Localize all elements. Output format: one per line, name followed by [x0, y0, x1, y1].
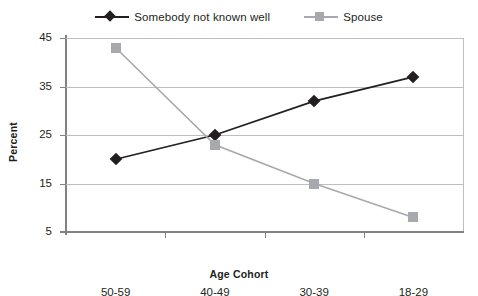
data-point-marker — [408, 212, 418, 222]
legend-label-0: Somebody not known well — [134, 11, 270, 23]
legend-key-square-icon — [304, 11, 338, 23]
y-tick-label: 15 — [4, 178, 52, 190]
data-point-marker — [309, 179, 319, 189]
x-tick-mark — [265, 232, 266, 238]
plot-area: 515253545 50-5940-4930-3918-29 — [66, 38, 463, 232]
series-lines — [66, 38, 463, 232]
y-tick-label: 45 — [4, 32, 52, 44]
x-tick-label: 50-59 — [101, 286, 130, 296]
legend-item-somebody-not-known-well: Somebody not known well — [95, 11, 270, 23]
x-tick-label: 18-29 — [399, 286, 428, 296]
data-point-marker — [111, 43, 121, 53]
x-tick-label: 30-39 — [299, 286, 328, 296]
legend-label-1: Spouse — [343, 11, 383, 23]
x-tick-label: 40-49 — [200, 286, 229, 296]
legend-item-spouse: Spouse — [304, 11, 383, 23]
x-axis-title: Age Cohort — [0, 268, 478, 280]
series-line-0 — [116, 77, 414, 159]
y-tick-mark — [60, 232, 66, 233]
legend-key-diamond-icon — [95, 11, 129, 23]
x-tick-mark — [364, 232, 365, 238]
x-tick-mark — [165, 232, 166, 238]
series-line-1 — [116, 48, 414, 218]
y-axis-title: Percent — [3, 102, 23, 182]
y-tick-label: 5 — [4, 226, 52, 238]
chart-legend: Somebody not known well Spouse — [0, 6, 478, 28]
chart-container: Somebody not known well Spouse Percent A… — [0, 0, 478, 296]
y-tick-label: 35 — [4, 81, 52, 93]
y-tick-label: 25 — [4, 129, 52, 141]
data-point-marker — [210, 140, 220, 150]
